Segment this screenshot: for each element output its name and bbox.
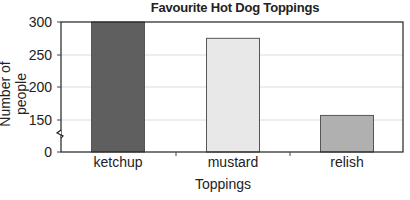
axis-break-icon	[57, 130, 63, 138]
y-tick-label: 250	[29, 47, 53, 63]
bar-mustard	[207, 38, 260, 152]
x-tick-label: ketchup	[93, 154, 142, 170]
y-tick-label: 300	[29, 14, 53, 30]
y-tick-labels: 0150200250300	[29, 14, 53, 160]
y-tick-label: 200	[29, 79, 53, 95]
bar-relish	[321, 115, 374, 152]
x-tick-label: mustard	[208, 154, 259, 170]
y-tick-label: 0	[44, 144, 52, 160]
x-tick-label: relish	[330, 154, 363, 170]
bar-ketchup	[92, 22, 145, 152]
y-tick-label: 150	[29, 112, 53, 128]
bar-chart: 0150200250300 ketchupmustardrelish	[0, 0, 410, 200]
x-tick-labels: ketchupmustardrelish	[93, 154, 363, 170]
